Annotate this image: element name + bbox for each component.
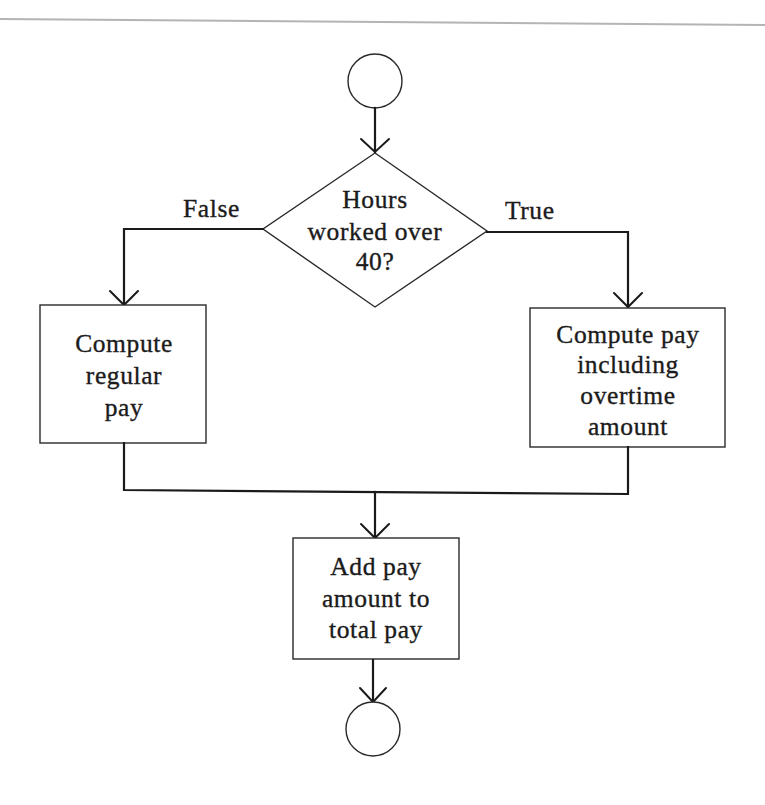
decision-text-line-3: 40? (356, 247, 395, 276)
process-text-line-3: pay (105, 393, 144, 422)
process-text-line-3: overtime (580, 381, 675, 410)
process-text-line-2: including (577, 350, 679, 379)
flowchart-diagram: Hours worked over 40? False True Compute… (0, 0, 765, 805)
decision-node: Hours worked over 40? (263, 153, 487, 307)
process-compute-regular-pay: Compute regular pay (40, 305, 206, 443)
edge-start-to-decision (361, 108, 389, 152)
process-text-line-1: Add pay (330, 552, 421, 581)
start-terminal-node (348, 54, 402, 108)
process-text-line-1: Compute (75, 329, 173, 358)
process-compute-overtime-pay: Compute pay including overtime amount (530, 308, 725, 447)
true-branch-label: True (505, 196, 555, 225)
process-text-line-2: amount to (322, 584, 430, 613)
edge-merge-to-end (360, 660, 386, 702)
false-branch-label: False (183, 194, 240, 223)
end-terminal-node (346, 702, 400, 756)
edge-true-branch: True (487, 196, 642, 307)
edge-merge (124, 443, 628, 538)
decision-text-line-2: worked over (308, 217, 443, 246)
process-text-line-3: total pay (329, 615, 423, 644)
process-text-line-4: amount (588, 412, 668, 441)
process-text-line-2: regular (86, 361, 162, 390)
page-top-rule (0, 19, 765, 25)
decision-text-line-1: Hours (342, 185, 407, 214)
process-text-line-1: Compute pay (556, 320, 699, 349)
edge-false-branch: False (110, 194, 263, 305)
process-add-to-total-pay: Add pay amount to total pay (293, 538, 459, 659)
